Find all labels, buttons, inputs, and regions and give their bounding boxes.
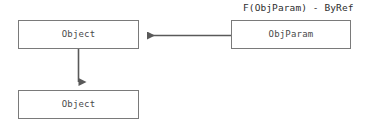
node-object-bottom-left-label: Object <box>62 100 96 109</box>
diagram-canvas: F(ObjParam) - ByRef Object Object ObjPar… <box>0 0 371 125</box>
node-object-bottom-left[interactable]: Object <box>18 90 139 119</box>
function-signature-caption: F(ObjParam) - ByRef <box>243 3 354 13</box>
node-object-top-left-label: Object <box>62 30 96 39</box>
node-objparam-right[interactable]: ObjParam <box>231 20 351 49</box>
node-objparam-right-label: ObjParam <box>269 30 314 39</box>
node-object-top-left[interactable]: Object <box>18 20 139 49</box>
